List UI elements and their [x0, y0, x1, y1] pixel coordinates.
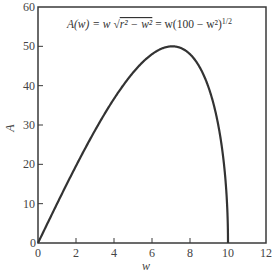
x-tick-label: 0 [35, 246, 41, 260]
x-tick-label: 4 [111, 246, 117, 260]
x-tick-label: 12 [260, 246, 272, 260]
y-tick-label: 30 [23, 118, 35, 132]
x-tick-label: 2 [73, 246, 79, 260]
x-tick-label: 6 [149, 246, 155, 260]
y-axis-label: A [3, 124, 17, 133]
plot-frame [38, 7, 266, 243]
x-tick-label: 10 [222, 246, 234, 260]
x-tick-label: 8 [187, 246, 193, 260]
y-axis-ticks: 0102030405060 [23, 0, 43, 250]
y-tick-label: 50 [23, 39, 35, 53]
y-tick-label: 10 [23, 197, 35, 211]
formula-annotation: A(w) = w √r² − w² = w(100 − w²)1/2 [66, 17, 232, 31]
area-curve [38, 46, 228, 243]
y-tick-label: 20 [23, 157, 35, 171]
chart: 0102030405060 024681012 A(w) = w √r² − w… [0, 0, 274, 274]
x-axis-ticks: 024681012 [35, 238, 272, 260]
y-tick-label: 60 [23, 0, 35, 14]
y-tick-label: 40 [23, 79, 35, 93]
x-axis-label: w [142, 259, 150, 273]
